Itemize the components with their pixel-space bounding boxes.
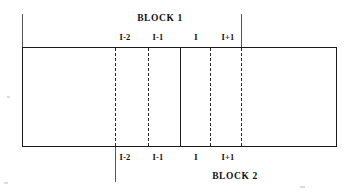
top-axis-label-i-plus-1: I+1: [221, 33, 234, 42]
cell-face-i: [210, 48, 211, 146]
top-axis-label-i-minus-1: I-1: [153, 33, 164, 42]
cell-face-i-minus-1: [148, 48, 149, 146]
cell-face-i-plus-1: [241, 48, 242, 146]
scan-speck: [7, 96, 10, 98]
figure-canvas: BLOCK 1 I-2 I-1 I I+1 I-2 I-1 I I+1 BLOC…: [0, 0, 352, 192]
scan-speck: [4, 182, 8, 184]
block-interface-line: [180, 47, 181, 147]
scan-speck: [300, 186, 305, 188]
bottom-axis-label-i-minus-1: I-1: [153, 153, 164, 162]
block-2-title: BLOCK 2: [212, 172, 258, 182]
leader-line-left-top: [22, 14, 23, 48]
block-1-title: BLOCK 1: [137, 14, 183, 24]
leader-line-bottom: [115, 147, 116, 182]
bottom-axis-label-i-plus-1: I+1: [221, 153, 234, 162]
bottom-axis-label-i: I: [194, 153, 198, 162]
top-axis-label-i: I: [194, 33, 198, 42]
cell-face-i-minus-2: [115, 48, 116, 146]
leader-line-right-top: [241, 14, 242, 48]
top-axis-label-i-minus-2: I-2: [120, 33, 131, 42]
bottom-axis-label-i-minus-2: I-2: [120, 153, 131, 162]
